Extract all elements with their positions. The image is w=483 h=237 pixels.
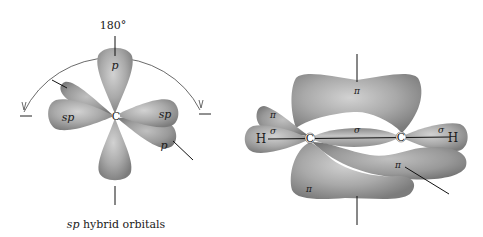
label-pi-top: π [353,86,361,96]
label-h-right: H [448,131,458,145]
orbital-diagram: 180° p sp sp p C sp hybrid orbitals [0,0,483,237]
acetylene-bonding-figure: H C C H π π σ σ σ π π [245,54,468,225]
caption-italic: sp [67,218,80,231]
angle-label: 180° [100,19,127,32]
label-sigma-right: σ [438,125,445,135]
label-c-left: C [306,132,314,145]
p-lobe-top [97,48,132,114]
label-sigma-left: σ [270,126,277,136]
label-p-right: p [160,139,167,152]
sp-hybrid-figure: 180° p sp sp p C sp hybrid orbitals [20,18,211,231]
label-p-top: p [111,59,118,72]
label-sp-left: sp [62,111,75,124]
caption-rest: hybrid orbitals [79,218,165,231]
label-sp-right: sp [159,108,172,121]
caption: sp hybrid orbitals [67,218,166,231]
pointer-p-front [173,141,193,160]
p-lobe-bottom [99,118,132,180]
label-pi-upper-left: π [269,110,277,120]
label-h-left: H [256,132,266,146]
label-sigma-center: σ [354,125,361,135]
label-pi-lower-right: π [394,160,402,170]
label-c-right: C [397,131,405,144]
label-pi-lower-left: π [305,184,313,194]
sp-lobe-left [48,99,114,130]
label-carbon: C [112,110,120,123]
arc-arrow-right [199,100,203,108]
